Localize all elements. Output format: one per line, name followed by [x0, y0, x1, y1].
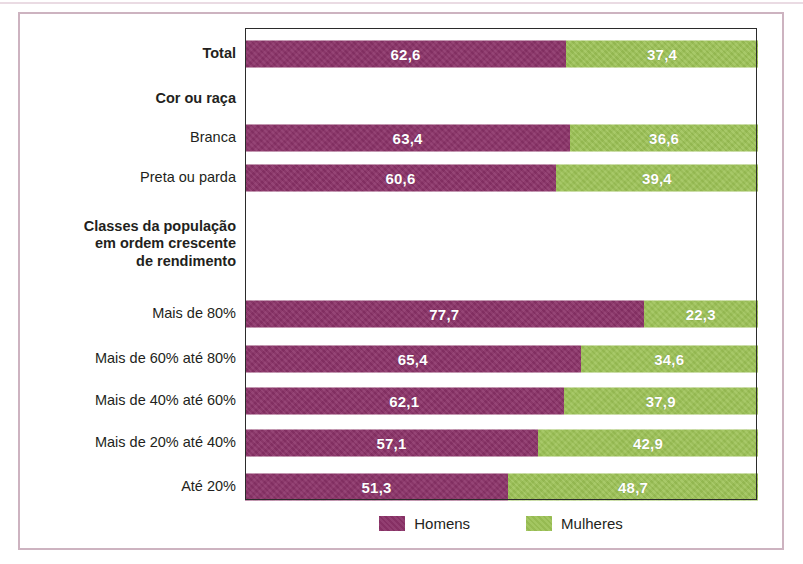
chart-row-preta-ou-parda: Preta ou parda60,639,4 — [28, 158, 758, 198]
row-track-branca: 63,436,6 — [245, 118, 758, 158]
row-label-total: Total — [28, 45, 245, 62]
stacked-bar-preta-ou-parda: 60,639,4 — [245, 165, 758, 192]
bar-value-homens-mais-de-80: 77,7 — [429, 306, 459, 323]
row-track-classes-da-populacao — [245, 198, 758, 290]
bar-segment-homens-branca: 63,4 — [245, 125, 570, 152]
bar-value-homens-branca: 63,4 — [393, 130, 423, 147]
bar-segment-homens-ate-20: 51,3 — [245, 474, 508, 501]
bar-value-mulheres-branca: 36,6 — [649, 130, 679, 147]
bar-segment-mulheres-preta-ou-parda: 39,4 — [556, 165, 758, 192]
row-track-mais-de-80: 77,722,3 — [245, 290, 758, 338]
chart-row-cor-ou-raca: Cor ou raça — [28, 80, 758, 118]
bar-value-mulheres-mais-de-80: 22,3 — [686, 306, 716, 323]
chart-row-mais-de-40-ate-60: Mais de 40% até 60%62,137,9 — [28, 380, 758, 422]
chart-row-mais-de-60-ate-80: Mais de 60% até 80%65,434,6 — [28, 338, 758, 380]
bar-segment-homens-mais-de-80: 77,7 — [245, 301, 644, 328]
bar-segment-homens-preta-ou-parda: 60,6 — [245, 165, 556, 192]
stacked-bar-total: 62,637,4 — [245, 41, 758, 68]
stacked-bar-mais-de-40-ate-60: 62,137,9 — [245, 388, 758, 415]
bar-segment-mulheres-mais-de-40-ate-60: 37,9 — [564, 388, 758, 415]
stacked-bar-ate-20: 51,348,7 — [245, 474, 758, 501]
legend-swatch-homens — [379, 516, 405, 531]
legend-item-mulheres[interactable]: Mulheres — [526, 515, 623, 532]
stacked-bar-mais-de-20-ate-40: 57,142,9 — [245, 430, 758, 457]
chart-row-total: Total62,637,4 — [28, 28, 758, 80]
chart-row-mais-de-80: Mais de 80%77,722,3 — [28, 290, 758, 338]
row-track-ate-20: 51,348,7 — [245, 464, 758, 510]
chart-row-classes-da-populacao: Classes da população em ordem crescente … — [28, 198, 758, 290]
bar-value-homens-preta-ou-parda: 60,6 — [385, 170, 415, 187]
bar-value-mulheres-mais-de-60-ate-80: 34,6 — [654, 351, 684, 368]
chart-row-mais-de-20-ate-40: Mais de 20% até 40%57,142,9 — [28, 422, 758, 464]
row-track-mais-de-20-ate-40: 57,142,9 — [245, 422, 758, 464]
bar-segment-mulheres-mais-de-60-ate-80: 34,6 — [581, 346, 758, 373]
bar-segment-homens-mais-de-40-ate-60: 62,1 — [245, 388, 564, 415]
bar-segment-mulheres-ate-20: 48,7 — [508, 474, 758, 501]
row-label-mais-de-60-ate-80: Mais de 60% até 80% — [28, 350, 245, 367]
row-label-classes-da-populacao: Classes da população em ordem crescente … — [28, 218, 245, 269]
bar-segment-mulheres-mais-de-80: 22,3 — [644, 301, 758, 328]
stacked-bar-branca: 63,436,6 — [245, 125, 758, 152]
bar-value-mulheres-preta-ou-parda: 39,4 — [642, 170, 672, 187]
row-label-mais-de-40-ate-60: Mais de 40% até 60% — [28, 392, 245, 409]
chart-legend: HomensMulheres — [245, 515, 757, 532]
row-label-ate-20: Até 20% — [28, 478, 245, 495]
bar-segment-homens-mais-de-20-ate-40: 57,1 — [245, 430, 538, 457]
row-label-mais-de-80: Mais de 80% — [28, 305, 245, 322]
page-canvas: Total62,637,4Cor ou raçaBranca63,436,6Pr… — [0, 0, 803, 564]
bar-value-homens-mais-de-60-ate-80: 65,4 — [398, 351, 428, 368]
bar-value-mulheres-mais-de-40-ate-60: 37,9 — [646, 393, 676, 410]
bar-value-mulheres-total: 37,4 — [647, 46, 677, 63]
row-track-total: 62,637,4 — [245, 28, 758, 80]
bar-segment-mulheres-branca: 36,6 — [570, 125, 758, 152]
row-label-preta-ou-parda: Preta ou parda — [28, 169, 245, 186]
bar-value-homens-mais-de-40-ate-60: 62,1 — [389, 393, 419, 410]
stacked-bar-mais-de-80: 77,722,3 — [245, 301, 758, 328]
bar-segment-mulheres-mais-de-20-ate-40: 42,9 — [538, 430, 758, 457]
stacked-bar-chart: Total62,637,4Cor ou raçaBranca63,436,6Pr… — [0, 0, 803, 564]
chart-rows: Total62,637,4Cor ou raçaBranca63,436,6Pr… — [28, 28, 758, 510]
chart-row-branca: Branca63,436,6 — [28, 118, 758, 158]
bar-segment-homens-mais-de-60-ate-80: 65,4 — [245, 346, 581, 373]
bar-segment-mulheres-total: 37,4 — [566, 41, 758, 68]
legend-swatch-mulheres — [526, 516, 552, 531]
bar-segment-homens-total: 62,6 — [245, 41, 566, 68]
chart-row-ate-20: Até 20%51,348,7 — [28, 464, 758, 510]
legend-label-homens: Homens — [414, 515, 470, 532]
row-track-preta-ou-parda: 60,639,4 — [245, 158, 758, 198]
row-label-mais-de-20-ate-40: Mais de 20% até 40% — [28, 434, 245, 451]
row-track-mais-de-60-ate-80: 65,434,6 — [245, 338, 758, 380]
legend-item-homens[interactable]: Homens — [379, 515, 470, 532]
row-label-cor-ou-raca: Cor ou raça — [28, 90, 245, 107]
row-track-cor-ou-raca — [245, 80, 758, 118]
row-label-branca: Branca — [28, 129, 245, 146]
bar-value-homens-total: 62,6 — [391, 46, 421, 63]
bar-value-mulheres-ate-20: 48,7 — [618, 479, 648, 496]
legend-label-mulheres: Mulheres — [561, 515, 623, 532]
stacked-bar-mais-de-60-ate-80: 65,434,6 — [245, 346, 758, 373]
bar-value-mulheres-mais-de-20-ate-40: 42,9 — [633, 435, 663, 452]
bar-value-homens-mais-de-20-ate-40: 57,1 — [376, 435, 406, 452]
bar-value-homens-ate-20: 51,3 — [362, 479, 392, 496]
row-track-mais-de-40-ate-60: 62,137,9 — [245, 380, 758, 422]
